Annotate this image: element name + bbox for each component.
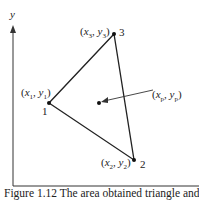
y-axis-label: y [10,8,15,20]
y-axis-arrow-icon [10,25,16,33]
vertex-3-number: 3 [119,26,125,38]
vertex-2-number: 2 [140,158,146,170]
vertex-1-dot [47,101,51,105]
point-p-dot [97,101,101,105]
figure-caption: Figure 1.12 The area obtained triangle a… [4,187,199,199]
vertex-1-number: 1 [42,105,48,117]
vertex-3-coord-label: (x3, y3) [80,25,110,40]
pointer-arrow-icon [101,97,108,103]
vertex-2-dot [132,158,136,162]
vertex-3-dot [112,32,116,36]
vertex-1-coord-label: (x1, y1) [21,86,51,101]
pointer-line [104,90,153,101]
vertex-2-coord-label: (x2, y2) [101,156,131,171]
point-p-coord-label: (xp, yp) [152,88,182,103]
